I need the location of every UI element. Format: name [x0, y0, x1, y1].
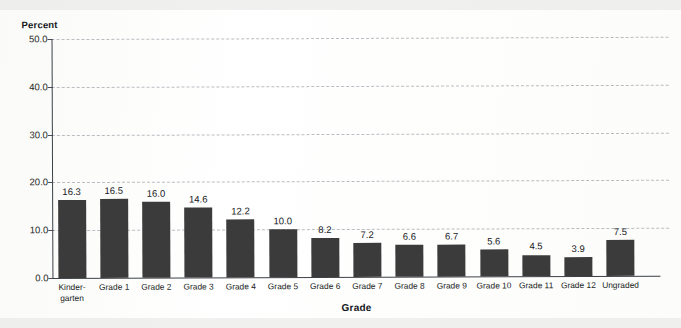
bar	[353, 242, 381, 277]
x-category-label: Grade 8	[386, 281, 434, 292]
bar	[227, 219, 255, 277]
gridline-50	[52, 37, 669, 40]
bar	[522, 255, 550, 277]
x-category-label: Grade 1	[90, 282, 138, 293]
x-category-label: Grade 5	[259, 281, 307, 292]
x-category-label: Grade 2	[132, 282, 180, 293]
x-category-label: Kinder- garten	[48, 282, 96, 303]
bar	[395, 245, 423, 277]
bar	[311, 238, 339, 277]
x-category-label: Grade 4	[217, 281, 265, 292]
bar	[58, 200, 86, 278]
x-category-label: Grade 3	[175, 281, 223, 292]
bar	[100, 199, 128, 278]
bar-chart-figure: Percent Grade 50.0 40.0 30.0 20.0 10.0 0…	[0, 0, 681, 328]
bar	[269, 229, 297, 277]
y-tick-label-50: 50.0	[13, 33, 47, 44]
y-tick-label-20: 20.0	[14, 177, 48, 188]
bar-value-label: 14.6	[173, 194, 223, 205]
bar	[142, 201, 170, 278]
y-tick-label-10: 10.0	[14, 224, 48, 235]
x-category-label: Ungraded	[597, 280, 645, 291]
gridline-20	[52, 180, 669, 183]
bar-value-label: 12.2	[215, 205, 265, 216]
x-category-label: Grade 9	[428, 280, 476, 291]
x-category-label: Grade 6	[301, 281, 349, 292]
y-tick-label-40: 40.0	[14, 81, 48, 92]
bars-layer: 16.3Kinder- garten16.5Grade 116.0Grade 2…	[0, 0, 680, 1]
x-axis-title: Grade	[307, 302, 407, 313]
y-tick-label-0: 0.0	[14, 272, 48, 283]
bar	[480, 250, 508, 277]
gridline-40	[52, 85, 669, 88]
bar	[184, 208, 212, 278]
x-category-label: Grade 10	[470, 280, 518, 291]
x-category-label: Grade 7	[343, 281, 391, 292]
bar-value-label: 3.9	[553, 243, 603, 254]
y-axis-title: Percent	[21, 19, 57, 30]
y-tick-label-30: 30.0	[14, 129, 48, 140]
bar	[438, 245, 466, 277]
bar	[564, 257, 592, 276]
x-category-label: Grade 11	[512, 280, 560, 291]
bar	[606, 240, 634, 276]
x-category-label: Grade 12	[554, 280, 602, 291]
gridline-30	[52, 132, 669, 135]
y-axis-line	[52, 39, 54, 278]
bar-value-label: 7.5	[595, 226, 645, 237]
plot-area: Percent Grade 50.0 40.0 30.0 20.0 10.0 0…	[0, 0, 681, 328]
